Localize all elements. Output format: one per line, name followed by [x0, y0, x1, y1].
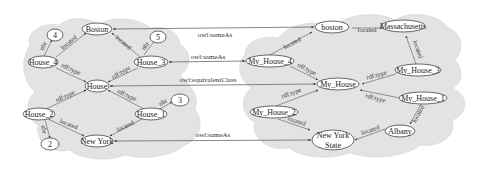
svg-text:State: State [325, 141, 341, 150]
svg-text:boston: boston [321, 23, 342, 32]
node-boston: Boston [82, 23, 112, 35]
svg-text:Boston: Boston [86, 25, 109, 34]
svg-text:located: located [358, 26, 378, 33]
svg-text:New York: New York [81, 137, 113, 146]
svg-text:House: House [87, 82, 108, 91]
node-value-2: 2 [41, 138, 59, 150]
svg-text:2: 2 [48, 140, 52, 149]
svg-text:My_House_2: My_House_2 [252, 108, 296, 117]
node-albany: Albany [385, 125, 415, 137]
svg-text:owl:sameAs: owl:sameAs [191, 53, 226, 61]
svg-text:5: 5 [156, 33, 160, 42]
node-value-3: 3 [171, 94, 189, 106]
node-my-house-3: My_House_3 [395, 64, 441, 76]
svg-text:My_House_1: My_House_1 [401, 94, 445, 103]
ontology-alignment-diagram: nbr located located nbr rdf:type rdf:typ… [0, 0, 480, 170]
node-my-house: My_House [317, 78, 359, 90]
node-new-york-state: New YorkState [312, 130, 354, 150]
svg-text:House_1: House_1 [137, 110, 165, 119]
node-my-house-2: My_House_2 [250, 106, 298, 118]
node-house-1: House_1 [135, 108, 167, 120]
node-house-2: House_2 [23, 108, 55, 120]
node-value-4: 4 [47, 29, 63, 41]
node-value-5: 5 [150, 31, 166, 43]
svg-text:My_House: My_House [320, 80, 356, 89]
node-house-4: House_4 [28, 56, 58, 68]
node-new-york: New York [81, 135, 113, 147]
node-my-house-1: My_House_1 [399, 92, 447, 104]
node-house: House [85, 80, 109, 92]
svg-text:House_2: House_2 [25, 110, 53, 119]
svg-text:House_4: House_4 [29, 58, 57, 67]
svg-text:Massachusetts: Massachusetts [380, 22, 426, 31]
svg-text:3: 3 [178, 96, 182, 105]
node-house-3: House_3 [134, 56, 168, 68]
svg-text:owl:equivalentClass: owl:equivalentClass [180, 76, 237, 84]
svg-text:House_3: House_3 [137, 58, 165, 67]
svg-text:My_House_4: My_House_4 [248, 57, 292, 66]
svg-text:owl:sameAs: owl:sameAs [196, 131, 231, 139]
svg-text:owl:sameAs: owl:sameAs [198, 31, 233, 39]
node-boston-lower: boston [315, 21, 349, 33]
svg-text:New York: New York [317, 131, 349, 140]
svg-text:My_House_3: My_House_3 [396, 66, 440, 75]
node-massachusetts: Massachusetts [380, 20, 426, 32]
node-my-house-4: My_House_4 [246, 55, 294, 67]
svg-text:4: 4 [53, 31, 57, 40]
svg-text:Albany: Albany [388, 127, 412, 136]
